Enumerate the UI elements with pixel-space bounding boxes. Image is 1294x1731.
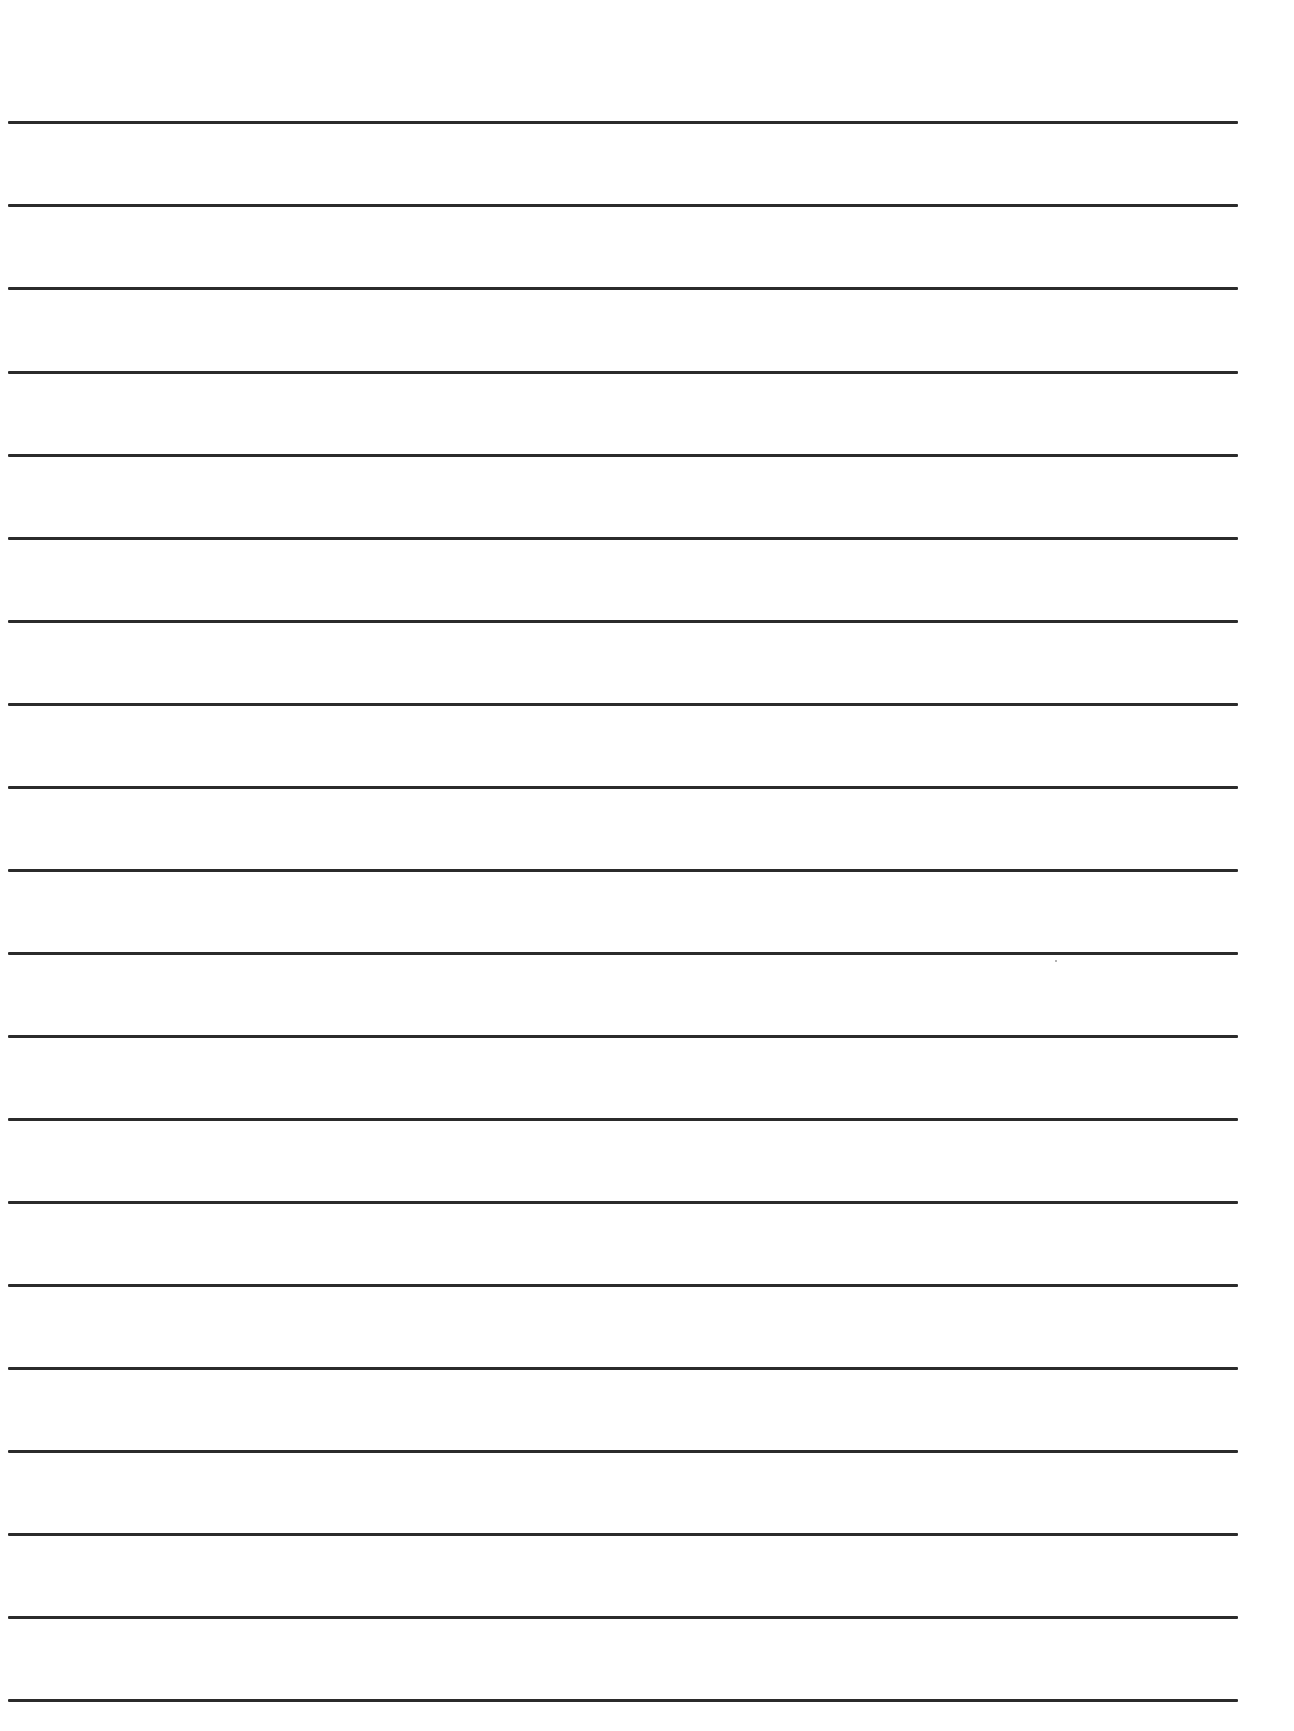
ruled-line bbox=[8, 620, 1238, 623]
ruled-line bbox=[8, 1201, 1238, 1204]
lined-paper-page bbox=[0, 0, 1294, 1731]
ruled-line bbox=[8, 1118, 1238, 1121]
ruled-line bbox=[8, 121, 1238, 124]
ruled-line bbox=[8, 786, 1238, 789]
ruled-line bbox=[8, 1367, 1238, 1370]
ruled-line bbox=[8, 1616, 1238, 1619]
ruled-line bbox=[8, 1450, 1238, 1453]
ruled-line bbox=[8, 454, 1238, 457]
ruled-line bbox=[8, 204, 1238, 207]
scan-speck bbox=[1055, 960, 1057, 962]
ruled-line bbox=[8, 1035, 1238, 1038]
ruled-line bbox=[8, 371, 1238, 374]
ruled-line bbox=[8, 869, 1238, 872]
ruled-line bbox=[8, 287, 1238, 290]
ruled-line bbox=[8, 703, 1238, 706]
ruled-line bbox=[8, 1284, 1238, 1287]
ruled-line bbox=[8, 1699, 1238, 1702]
ruled-line bbox=[8, 537, 1238, 540]
ruled-line bbox=[8, 952, 1238, 955]
ruled-line bbox=[8, 1533, 1238, 1536]
